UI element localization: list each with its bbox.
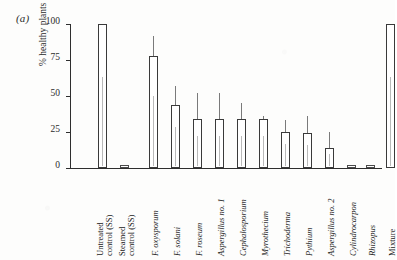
- category-label-text: Aspergillus no. 2: [327, 198, 336, 256]
- error-bar-whisker: [175, 86, 176, 105]
- bar-slot: [171, 24, 180, 168]
- bar-inner-scanline: [102, 77, 103, 166]
- bar-slot: [303, 24, 312, 168]
- bar-slot: [215, 24, 224, 168]
- bar-slot: [347, 24, 356, 168]
- category-label-text: Trichoderma: [283, 212, 292, 256]
- bar-slot: [149, 24, 158, 168]
- error-bar-whisker: [241, 103, 242, 119]
- bar-inner-scanline: [263, 136, 264, 166]
- error-bar-whisker: [153, 36, 154, 56]
- bar: [120, 165, 129, 168]
- bar-slot: [386, 24, 395, 168]
- bar-slot: [366, 24, 375, 168]
- error-bar-whisker: [219, 93, 220, 119]
- bar-slot: [120, 24, 129, 168]
- bar-inner-scanline: [285, 144, 286, 166]
- error-bar-whisker: [329, 132, 330, 148]
- bar-slot: [259, 24, 268, 168]
- y-tick-label: 0: [55, 161, 60, 171]
- bar: [347, 165, 356, 168]
- bar-inner-scanline: [219, 136, 220, 166]
- y-axis-line: [70, 24, 71, 168]
- category-label-text: Mixture: [388, 229, 397, 256]
- y-tick: 100: [66, 24, 70, 25]
- y-tick: 0: [66, 168, 70, 169]
- bar-slot: [237, 24, 246, 168]
- category-label-text: Myrothecium: [261, 211, 270, 256]
- bar-inner-scanline: [390, 77, 391, 166]
- error-bar-whisker: [285, 120, 286, 132]
- bar-inner-scanline: [153, 96, 154, 166]
- y-tick: 75: [66, 60, 70, 61]
- y-tick-label: 25: [51, 125, 61, 135]
- y-tick-label: 75: [51, 53, 61, 63]
- bar-slot: [98, 24, 107, 168]
- bar-inner-scanline: [241, 136, 242, 166]
- bar: [366, 165, 375, 168]
- bar-slot: [325, 24, 334, 168]
- error-bar-whisker: [197, 93, 198, 119]
- category-label-text: Aspergillus no. 1: [217, 198, 226, 256]
- bar-inner-scanline: [307, 145, 308, 166]
- y-tick: 25: [66, 132, 70, 133]
- y-axis-title: % healthy plants: [38, 52, 48, 66]
- plot-area: 0255075100: [70, 20, 382, 172]
- bar-inner-scanline: [175, 127, 176, 166]
- error-bar-whisker: [307, 116, 308, 133]
- category-label-text: Untreatedcontrol (SS): [96, 215, 114, 256]
- error-bar-whisker: [263, 116, 264, 119]
- bar-slot: [193, 24, 202, 168]
- y-tick-label: 50: [51, 89, 61, 99]
- category-label-text: Cephalosporium: [239, 199, 248, 256]
- y-tick: 50: [66, 96, 70, 97]
- panel-label: (a): [16, 12, 29, 24]
- bar-inner-scanline: [329, 154, 330, 166]
- category-label-text: F. oxysporum: [151, 210, 160, 256]
- category-label-text: Rhizopus: [368, 225, 377, 256]
- x-axis-line: [70, 168, 382, 169]
- y-tick-label: 100: [46, 17, 60, 27]
- bar-slot: [281, 24, 290, 168]
- category-label-text: F. solani: [173, 227, 182, 256]
- category-label-text: Cylindrocarpon: [349, 202, 358, 256]
- category-label-text: F. roseum: [195, 223, 204, 256]
- category-label-text: Steamedcontrol (SS): [118, 215, 136, 256]
- bar-inner-scanline: [197, 136, 198, 166]
- category-label-text: Pythium: [305, 228, 314, 256]
